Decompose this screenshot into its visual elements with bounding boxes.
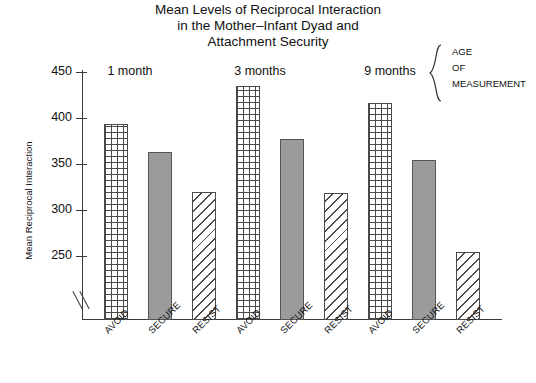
y-tick-300 (76, 210, 87, 211)
legend: AGE OF MEASUREMENT (428, 44, 536, 102)
y-tick-250 (76, 256, 87, 257)
chart-container: Mean Levels of Reciprocal Interaction in… (0, 0, 536, 383)
bar-9months-avoid (368, 103, 392, 320)
bar-3months-secure (280, 139, 304, 320)
group-header-1-month: 1 month (70, 64, 190, 78)
bar-1month-resist (192, 192, 216, 320)
bar-1month-secure (148, 152, 172, 320)
y-tick-label-250: 250 (32, 248, 72, 262)
legend-line-of: OF (452, 62, 465, 73)
group-header-3-months: 3 months (200, 64, 320, 78)
y-tick-400 (76, 118, 87, 119)
legend-line-measurement: MEASUREMENT (452, 78, 526, 89)
y-tick-label-300: 300 (32, 202, 72, 216)
plot-area: 450 400 350 300 250 Mean Reciprocal Inte… (0, 0, 536, 383)
bar-3months-resist (324, 193, 348, 320)
axis-break-icon (70, 288, 96, 314)
bar-9months-secure (412, 160, 436, 320)
bar-3months-avoid (236, 86, 260, 320)
y-tick-label-450: 450 (32, 64, 72, 78)
y-tick-label-400: 400 (32, 110, 72, 124)
legend-line-age: AGE (452, 46, 472, 57)
y-tick-350 (76, 164, 87, 165)
y-axis-title: Mean Reciprocal Interaction (23, 111, 34, 291)
bar-1month-avoid (104, 124, 128, 320)
y-axis-line (82, 70, 83, 320)
curly-brace-icon (428, 44, 444, 102)
y-tick-label-350: 350 (32, 156, 72, 170)
